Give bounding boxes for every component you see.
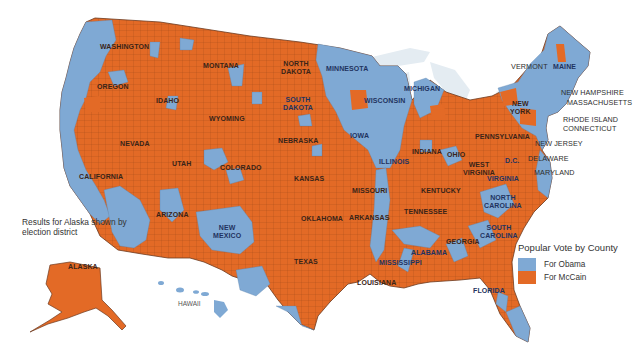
label-idaho: IDAHO	[156, 97, 179, 105]
label-dc: D.C.	[505, 157, 519, 165]
label-texas: TEXAS	[294, 258, 318, 266]
label-iowa: IOWA	[350, 132, 369, 140]
label-wisconsin: WISCONSIN	[364, 97, 405, 105]
label-utah: UTAH	[172, 160, 191, 168]
label-hawaii: HAWAII	[178, 300, 201, 307]
label-oklahoma: OKLAHOMA	[301, 215, 343, 223]
label-colorado: COLORADO	[220, 164, 262, 172]
legend: Popular Vote by County For Obama For McC…	[518, 242, 618, 284]
label-montana: MONTANA	[203, 62, 239, 70]
label-maryland: MARYLAND	[534, 169, 575, 177]
label-oregon: OREGON	[97, 83, 129, 91]
label-florida: FLORIDA	[473, 287, 505, 295]
label-louisiana: LOUISIANA	[357, 279, 396, 287]
label-virginia: VIRGINIA	[487, 175, 519, 183]
label-washington: WASHINGTON	[100, 43, 149, 51]
label-new-jersey: NEW JERSEY	[535, 140, 583, 148]
label-west-virginia: WEST VIRGINIA	[463, 161, 495, 176]
alaska-note: Results for Alaska shown by election dis…	[22, 218, 132, 237]
label-indiana: INDIANA	[412, 148, 442, 156]
label-new-york: NEW YORK	[510, 100, 531, 115]
label-nevada: NEVADA	[120, 140, 150, 148]
label-rhode-island: RHODE ISLAND	[563, 116, 618, 124]
label-maine: MAINE	[553, 63, 576, 71]
label-wyoming: WYOMING	[209, 115, 245, 123]
label-california: CALIFORNIA	[79, 173, 123, 181]
label-connecticut: CONNECTICUT	[563, 125, 616, 133]
label-delaware: DELAWARE	[528, 155, 569, 163]
label-tennessee: TENNESSEE	[404, 208, 447, 216]
label-illinois: ILLINOIS	[379, 158, 409, 166]
label-massachusetts: MASSACHUSETTS	[567, 99, 632, 107]
label-vermont: VERMONT	[511, 63, 548, 71]
label-kansas: KANSAS	[294, 175, 324, 183]
label-south-dakota: SOUTH DAKOTA	[283, 96, 313, 111]
label-arkansas: ARKANSAS	[349, 214, 389, 222]
legend-label-mccain: For McCain	[544, 273, 586, 282]
legend-title: Popular Vote by County	[518, 242, 618, 253]
label-alabama: ALABAMA	[411, 249, 447, 257]
label-alaska: ALASKA	[68, 263, 98, 271]
label-minnesota: MINNESOTA	[326, 65, 368, 73]
legend-item-obama: For Obama	[518, 258, 618, 271]
label-north-carolina: NORTH CAROLINA	[484, 194, 522, 209]
label-ohio: OHIO	[447, 151, 465, 159]
label-nebraska: NEBRASKA	[278, 137, 318, 145]
alaska	[30, 262, 126, 332]
label-new-mexico: NEW MEXICO	[213, 224, 241, 239]
label-pennsylvania: PENNSYLVANIA	[475, 133, 530, 141]
label-new-hampshire: NEW HAMPSHIRE	[561, 89, 624, 97]
label-kentucky: KENTUCKY	[421, 187, 461, 195]
label-georgia: GEORGIA	[446, 238, 480, 246]
label-north-dakota: NORTH DAKOTA	[281, 60, 311, 75]
label-arizona: ARIZONA	[156, 211, 189, 219]
label-michigan: MICHIGAN	[404, 85, 440, 93]
label-missouri: MISSOURI	[352, 187, 387, 195]
legend-label-obama: For Obama	[544, 260, 585, 269]
legend-item-mccain: For McCain	[518, 271, 618, 284]
mccain-swatch	[518, 271, 536, 284]
label-mississippi: MISSISSIPPI	[379, 259, 422, 267]
obama-swatch	[518, 258, 536, 271]
label-south-carolina: SOUTH CAROLINA	[480, 224, 518, 239]
